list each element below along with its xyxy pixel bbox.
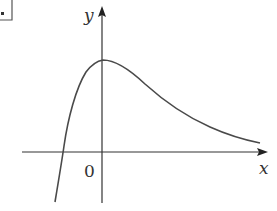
graph-svg: y x 0 bbox=[0, 0, 277, 211]
corner-box bbox=[0, 0, 12, 20]
origin-label: 0 bbox=[84, 161, 95, 181]
y-axis-label: y bbox=[83, 5, 94, 25]
function-graph: y x 0 bbox=[0, 0, 277, 211]
x-axis-label: x bbox=[259, 158, 269, 178]
y-axis bbox=[98, 6, 106, 203]
x-axis bbox=[22, 148, 268, 156]
